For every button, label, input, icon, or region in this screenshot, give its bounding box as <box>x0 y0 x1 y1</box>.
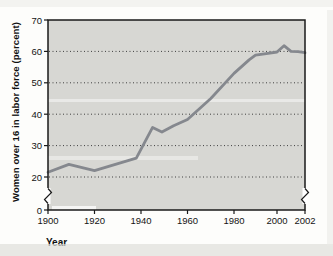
figure: 1900192019401960198020002002020304050607… <box>0 0 333 256</box>
y-tick-label-70: 70 <box>31 15 42 26</box>
scan-streak <box>48 156 198 160</box>
y-tick-label-50: 50 <box>31 77 42 88</box>
x-tick-label-1980: 1980 <box>223 215 244 226</box>
y-tick-label-20: 20 <box>31 172 42 183</box>
x-tick-label-1900: 1900 <box>37 215 58 226</box>
scan-streak <box>52 206 96 212</box>
x-axis-title: Year <box>46 237 67 248</box>
y-tick-label-60: 60 <box>31 46 42 57</box>
scan-streak <box>48 99 305 102</box>
x-tick-label-1960: 1960 <box>177 215 198 226</box>
x-tick-label-1920: 1920 <box>84 215 105 226</box>
x-tick-label-2000: 2000 <box>266 215 287 226</box>
x-tick-label-2002: 2002 <box>294 215 315 226</box>
plot-area <box>48 20 305 210</box>
y-tick-label-0: 0 <box>37 205 42 216</box>
x-tick-label-1940: 1940 <box>130 215 151 226</box>
y-axis-title: Women over 16 in labor force (percent) <box>9 12 23 212</box>
y-tick-label-30: 30 <box>31 140 42 151</box>
chart-svg: 1900192019401960198020002002020304050607… <box>0 0 333 256</box>
y-tick-label-40: 40 <box>31 109 42 120</box>
